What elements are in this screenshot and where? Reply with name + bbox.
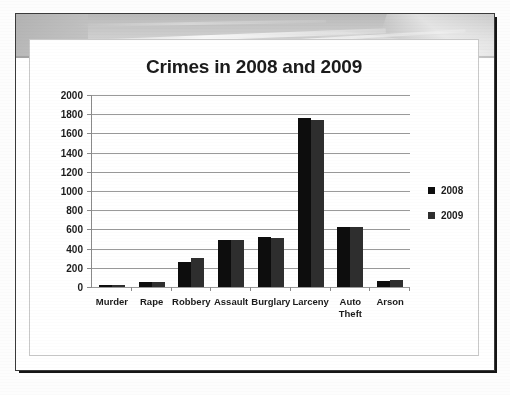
bar-group-robbery[interactable]: Robbery [172, 95, 212, 287]
x-axis-label: Arson [376, 296, 403, 308]
bars [211, 95, 251, 287]
x-axis-label: AutoTheft [339, 296, 362, 320]
bar-group-murder[interactable]: Murder [92, 95, 132, 287]
x-axis-label-line: Arson [376, 296, 403, 308]
chart-legend: 20082009 [428, 185, 488, 235]
presentation-slide: Crimes in 2008 and 2009 2000180016001400… [15, 13, 495, 371]
bars [172, 95, 212, 287]
x-axis-label-line: Rape [140, 296, 163, 308]
bar-2009-robbery[interactable] [191, 258, 204, 287]
x-axis-label: Burglary [251, 296, 290, 308]
bar-2009-arson[interactable] [390, 280, 403, 287]
legend-label: 2009 [441, 210, 463, 221]
x-axis-tick [290, 287, 291, 291]
chart-plot-area: 2000180016001400120010008006004002000 Mu… [92, 95, 410, 287]
bar-2008-auto-theft[interactable] [337, 227, 350, 287]
y-axis-label: 600 [66, 224, 83, 235]
bar-2009-rape[interactable] [152, 282, 165, 287]
bar-group-larceny[interactable]: Larceny [291, 95, 331, 287]
banner-swoosh-5 [76, 20, 326, 27]
bar-2008-arson[interactable] [377, 281, 390, 287]
x-axis-tick [131, 287, 132, 291]
x-axis-tick [369, 287, 370, 291]
legend-label: 2008 [441, 185, 463, 196]
x-axis-label: Larceny [292, 296, 328, 308]
x-axis-tick [171, 287, 172, 291]
x-axis-label: Murder [96, 296, 128, 308]
y-axis-label: 1600 [61, 128, 83, 139]
x-axis-tick [210, 287, 211, 291]
y-axis-tick [87, 287, 92, 288]
x-axis-label-line: Assault [214, 296, 248, 308]
x-axis-label-line: Larceny [292, 296, 328, 308]
y-axis-label: 0 [77, 282, 83, 293]
bar-2008-rape[interactable] [139, 282, 152, 287]
bars [132, 95, 172, 287]
chart-plot-wrapper: 2000180016001400120010008006004002000 Mu… [30, 40, 480, 357]
bar-2009-murder[interactable] [112, 285, 125, 287]
x-axis-label-line: Robbery [172, 296, 211, 308]
bar-group-arson[interactable]: Arson [370, 95, 410, 287]
y-axis-label: 2000 [61, 90, 83, 101]
bar-group-rape[interactable]: Rape [132, 95, 172, 287]
screenshot-root: Crimes in 2008 and 2009 2000180016001400… [0, 0, 510, 395]
x-axis-tick [409, 287, 410, 291]
x-axis-label-line: Burglary [251, 296, 290, 308]
x-axis-label: Rape [140, 296, 163, 308]
bar-2008-assault[interactable] [218, 240, 231, 287]
bar-group-assault[interactable]: Assault [211, 95, 251, 287]
x-axis-label-line: Theft [339, 308, 362, 320]
gridline [92, 287, 410, 288]
chart-container: Crimes in 2008 and 2009 2000180016001400… [29, 39, 479, 356]
x-axis-label-line: Murder [96, 296, 128, 308]
bar-2009-larceny[interactable] [311, 120, 324, 287]
bar-group-auto-theft[interactable]: AutoTheft [331, 95, 371, 287]
x-axis-tick [330, 287, 331, 291]
y-axis-label: 400 [66, 243, 83, 254]
bar-group-burglary[interactable]: Burglary [251, 95, 291, 287]
y-axis-label: 1800 [61, 109, 83, 120]
y-axis-label: 200 [66, 262, 83, 273]
bars [251, 95, 291, 287]
y-axis-label: 800 [66, 205, 83, 216]
bar-2008-murder[interactable] [99, 285, 112, 287]
y-axis-label: 1400 [61, 147, 83, 158]
y-axis-label: 1200 [61, 166, 83, 177]
legend-item-2008[interactable]: 2008 [428, 185, 488, 196]
x-axis-label-line: Auto [339, 296, 362, 308]
bar-groups: MurderRapeRobberyAssaultBurglaryLarcenyA… [92, 95, 410, 287]
x-axis-tick [250, 287, 251, 291]
bar-2008-larceny[interactable] [298, 118, 311, 287]
bars [92, 95, 132, 287]
y-axis-label: 1000 [61, 186, 83, 197]
bars [291, 95, 331, 287]
x-axis-label: Assault [214, 296, 248, 308]
bar-2009-auto-theft[interactable] [350, 227, 363, 287]
bar-2008-burglary[interactable] [258, 237, 271, 287]
x-axis-label: Robbery [172, 296, 211, 308]
bars [331, 95, 371, 287]
legend-item-2009[interactable]: 2009 [428, 210, 488, 221]
bar-2009-burglary[interactable] [271, 238, 284, 287]
legend-swatch-icon [428, 187, 435, 194]
bar-2009-assault[interactable] [231, 240, 244, 287]
legend-swatch-icon [428, 212, 435, 219]
bars [370, 95, 410, 287]
bar-2008-robbery[interactable] [178, 262, 191, 287]
